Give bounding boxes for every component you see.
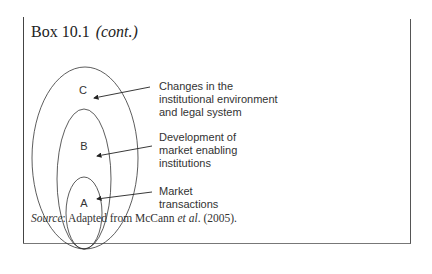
- description-line: Development of: [159, 131, 237, 144]
- arrow-a: [97, 192, 152, 199]
- source-prefix: Source: [31, 212, 63, 224]
- source-etal: et al: [178, 212, 198, 224]
- label-a: A: [80, 197, 87, 209]
- ellipse-b: [57, 109, 111, 249]
- arrow-c: [94, 87, 150, 98]
- description-line: Changes in the: [159, 80, 278, 93]
- label-c: C: [79, 84, 87, 96]
- description-a: Market transactions: [159, 185, 218, 211]
- source-text: : Adapted from McCann: [63, 212, 178, 224]
- arrow-b: [97, 146, 152, 156]
- label-b: B: [80, 140, 87, 152]
- description-line: institutions: [159, 157, 237, 170]
- description-b: Development of market enabling instituti…: [159, 131, 237, 170]
- source-year: . (2005).: [198, 212, 237, 224]
- description-line: Market: [159, 185, 218, 198]
- description-c: Changes in the institutional environment…: [159, 80, 278, 119]
- box-10-1: Box 10.1(cont.) C B A Changes in the ins…: [0, 0, 432, 274]
- description-line: market enabling: [159, 144, 237, 157]
- source-note: Source: Adapted from McCann et al. (2005…: [31, 212, 237, 224]
- description-line: institutional environment: [159, 93, 278, 106]
- description-line: transactions: [159, 198, 218, 211]
- description-line: and legal system: [159, 106, 278, 119]
